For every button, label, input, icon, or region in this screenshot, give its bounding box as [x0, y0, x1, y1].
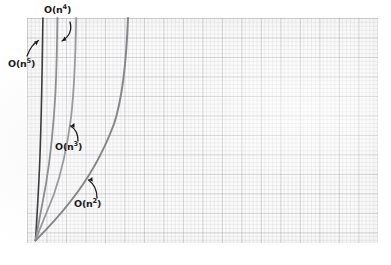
label-n4-text: O(n [44, 4, 63, 15]
label-n3-close: ) [78, 141, 82, 152]
arrow-n4 [62, 22, 71, 41]
label-n5: O(n5) [8, 58, 35, 69]
label-n5-text: O(n [8, 58, 27, 69]
label-n4-close: ) [67, 4, 71, 15]
label-n3-text: O(n [55, 141, 74, 152]
label-n2-close: ) [97, 198, 101, 209]
arrow-n5 [27, 41, 39, 57]
label-n3: O(n3) [55, 141, 82, 152]
complexity-growth-figure: O(n5) O(n4) O(n3) O(n2) [0, 0, 391, 265]
label-n4: O(n4) [44, 4, 71, 15]
arrow-n3 [71, 123, 79, 141]
label-n2-text: O(n [74, 198, 93, 209]
curve-n4 [36, 18, 58, 241]
arrow-n2 [89, 177, 98, 198]
label-n2: O(n2) [74, 198, 101, 209]
curves-layer [0, 0, 391, 265]
label-n5-close: ) [31, 58, 35, 69]
